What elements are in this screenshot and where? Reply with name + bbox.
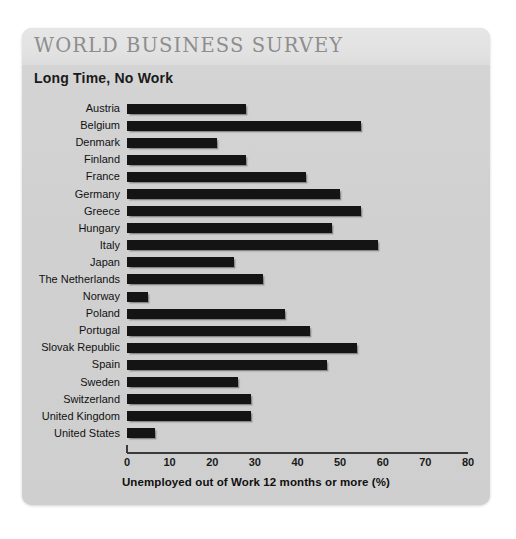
bar-track (125, 134, 490, 151)
bar (127, 360, 327, 370)
survey-card: WORLD BUSINESS SURVEY Long Time, No Work… (22, 28, 490, 505)
bar (127, 223, 332, 233)
x-axis-label: Unemployed out of Work 12 months or more… (22, 476, 490, 488)
bar-track (125, 374, 490, 391)
bar (127, 326, 310, 336)
bar (127, 257, 234, 267)
bar (127, 343, 357, 353)
bar-chart: AustriaBelgiumDenmarkFinlandFranceGerman… (22, 100, 490, 460)
category-label: Portugal (22, 325, 125, 336)
bar-rows: AustriaBelgiumDenmarkFinlandFranceGerman… (22, 100, 490, 442)
bar (127, 309, 285, 319)
bar (127, 172, 306, 182)
bar-row: Sweden (22, 374, 490, 391)
bar-track (125, 237, 490, 254)
category-label: France (22, 171, 125, 182)
bar (127, 377, 238, 387)
bar (127, 394, 251, 404)
bar-row: Greece (22, 203, 490, 220)
x-tick-label: 50 (334, 456, 346, 468)
category-label: Austria (22, 103, 125, 114)
bar-row: The Netherlands (22, 271, 490, 288)
category-label: Germany (22, 189, 125, 200)
category-label: Sweden (22, 377, 125, 388)
bar-track (125, 322, 490, 339)
bar (127, 189, 340, 199)
bar-track (125, 203, 490, 220)
bar-row: Austria (22, 100, 490, 117)
bar-track (125, 408, 490, 425)
bar (127, 206, 361, 216)
bar-track (125, 151, 490, 168)
category-label: Slovak Republic (22, 342, 125, 353)
bar-row: Hungary (22, 220, 490, 237)
bar-row: Poland (22, 305, 490, 322)
bar-track (125, 117, 490, 134)
category-label: Italy (22, 240, 125, 251)
category-label: The Netherlands (22, 274, 125, 285)
category-label: Greece (22, 206, 125, 217)
bar (127, 292, 148, 302)
x-tick-label: 30 (249, 456, 261, 468)
category-label: Norway (22, 291, 125, 302)
bar-track (125, 339, 490, 356)
bar-row: Italy (22, 237, 490, 254)
bar-track (125, 305, 490, 322)
bar (127, 240, 378, 250)
category-label: United Kingdom (22, 411, 125, 422)
bar-row: Slovak Republic (22, 339, 490, 356)
category-label: Belgium (22, 120, 125, 131)
bar-row: Belgium (22, 117, 490, 134)
bar-row: France (22, 168, 490, 185)
bar (127, 121, 361, 131)
bar-track (125, 254, 490, 271)
bar-track (125, 271, 490, 288)
bar (127, 104, 246, 114)
x-tick-label: 10 (164, 456, 176, 468)
x-axis-origin-tick (126, 445, 128, 453)
category-label: Hungary (22, 223, 125, 234)
bar (127, 138, 217, 148)
category-label: Finland (22, 154, 125, 165)
category-label: Japan (22, 257, 125, 268)
bar-row: Norway (22, 288, 490, 305)
x-tick-label: 40 (291, 456, 303, 468)
bar (127, 428, 155, 438)
bar-row: Denmark (22, 134, 490, 151)
x-tick-label: 20 (206, 456, 218, 468)
category-label: Poland (22, 308, 125, 319)
bar (127, 274, 263, 284)
x-tick-label: 80 (462, 456, 474, 468)
bar-row: Switzerland (22, 391, 490, 408)
bar (127, 411, 251, 421)
bar-track (125, 220, 490, 237)
bar-row: Portugal (22, 322, 490, 339)
x-tick-label: 70 (419, 456, 431, 468)
bar-row: United States (22, 425, 490, 442)
chart-title: Long Time, No Work (34, 70, 173, 86)
bar-track (125, 185, 490, 202)
bar-row: Spain (22, 356, 490, 373)
category-label: United States (22, 428, 125, 439)
x-tick-label: 60 (377, 456, 389, 468)
category-label: Denmark (22, 137, 125, 148)
bar-track (125, 168, 490, 185)
bar-track (125, 100, 490, 117)
category-label: Switzerland (22, 394, 125, 405)
bar-row: Germany (22, 185, 490, 202)
bar-track (125, 391, 490, 408)
bar (127, 155, 246, 165)
bar-track (125, 288, 490, 305)
bar-row: Japan (22, 254, 490, 271)
bar-track (125, 356, 490, 373)
survey-title: WORLD BUSINESS SURVEY (34, 34, 343, 57)
bar-row: Finland (22, 151, 490, 168)
x-tick-label: 0 (124, 456, 130, 468)
bar-track (125, 425, 490, 442)
bar-row: United Kingdom (22, 408, 490, 425)
x-axis-line (127, 452, 468, 454)
category-label: Spain (22, 359, 125, 370)
